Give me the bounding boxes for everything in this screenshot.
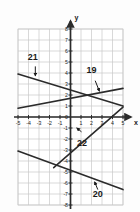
y-tick-label-8: 8: [65, 26, 68, 32]
y-tick-label-4: 4: [65, 70, 68, 76]
x-tick-label--1: -1: [58, 120, 63, 126]
x-tick-label--2: -2: [47, 120, 52, 126]
line-label-19: 19: [86, 65, 96, 75]
y-tick-label-6: 6: [65, 48, 68, 54]
x-tick-label-2: 2: [90, 120, 93, 126]
coordinate-plane: -5-4-3-2-112345876543210-1-2-3-4-5-6-7-8…: [0, 0, 140, 212]
x-axis-label: x: [134, 119, 138, 126]
x-tick-label-5: 5: [122, 120, 125, 126]
x-tick-label-4: 4: [111, 120, 114, 126]
y-tick-label-5: 5: [65, 59, 68, 65]
y-tick-label-0: 0: [65, 114, 68, 120]
line-label-21: 21: [28, 52, 38, 62]
y-tick-label--6: -6: [63, 180, 68, 186]
line-label-22: 22: [77, 138, 87, 148]
x-tick-label--5: -5: [16, 120, 21, 126]
line-label-20: 20: [93, 189, 103, 199]
x-tick-label--4: -4: [26, 120, 31, 126]
y-tick-label-7: 7: [65, 37, 68, 43]
y-axis-label: y: [75, 14, 79, 22]
x-tick-label--3: -3: [37, 120, 42, 126]
y-tick-label--8: -8: [63, 202, 68, 208]
y-tick-label--3: -3: [63, 147, 68, 153]
y-tick-label-2: 2: [65, 92, 68, 98]
y-tick-label--7: -7: [63, 191, 68, 197]
y-tick-label-3: 3: [65, 81, 68, 87]
y-tick-label-1: 1: [65, 103, 68, 109]
x-tick-label-1: 1: [80, 120, 83, 126]
y-tick-label--1: -1: [63, 125, 68, 131]
figure-canvas: -5-4-3-2-112345876543210-1-2-3-4-5-6-7-8…: [0, 0, 140, 212]
y-tick-label--2: -2: [63, 136, 68, 142]
